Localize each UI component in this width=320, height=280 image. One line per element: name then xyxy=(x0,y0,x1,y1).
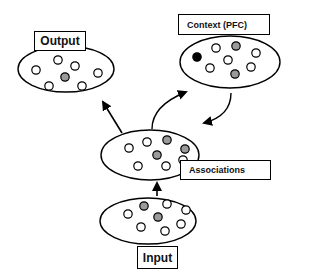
context-node-empty xyxy=(252,49,260,57)
output-node-empty xyxy=(78,82,86,90)
context-node-active xyxy=(232,42,240,50)
input-node-empty xyxy=(177,220,185,228)
input-node-active xyxy=(154,213,162,221)
input-node-active xyxy=(140,202,148,210)
associations-node-active xyxy=(163,136,171,144)
output-node-empty xyxy=(32,66,40,74)
input-node-empty xyxy=(163,200,171,208)
output-label: Output xyxy=(34,31,86,51)
input-node-empty xyxy=(137,223,145,231)
input-node-empty xyxy=(124,210,132,218)
associations-node-empty xyxy=(162,162,170,170)
context-node-context xyxy=(193,53,201,61)
context-node-empty xyxy=(206,64,214,72)
context-node-empty xyxy=(224,56,232,64)
associations-node-empty xyxy=(134,162,142,170)
associations-node-empty xyxy=(143,138,151,146)
arrow-associations-to-context xyxy=(152,92,186,129)
context-node-active xyxy=(231,70,239,78)
arrow-associations-to-output xyxy=(103,102,122,133)
associations-label: Associations xyxy=(180,160,271,180)
output-node-empty xyxy=(71,62,79,70)
context-label: Context (PFC) xyxy=(178,14,270,35)
associations-node-active xyxy=(153,151,161,159)
output-node-active xyxy=(61,73,69,81)
context-node-empty xyxy=(212,44,220,52)
input-node-empty xyxy=(161,227,169,235)
output-node-empty xyxy=(54,56,62,64)
output-node-empty xyxy=(94,69,102,77)
input-node-empty xyxy=(182,206,190,214)
associations-node-active xyxy=(181,145,189,153)
arrow-context-to-associations xyxy=(204,93,231,123)
context-node-empty xyxy=(247,63,255,71)
output-node-empty xyxy=(45,82,53,90)
input-label: Input xyxy=(137,246,178,269)
associations-node-empty xyxy=(125,144,133,152)
